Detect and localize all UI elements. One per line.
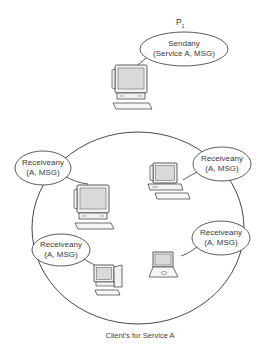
receiver-right-desktop-icon [148, 163, 190, 199]
sender-desktop-icon [112, 65, 152, 109]
receiver-left-desktop-icon [74, 185, 114, 229]
receiver-bottom-left-tower-icon [94, 265, 122, 295]
receiver-call-name: Receiveany [14, 158, 72, 168]
receiver-call-name: Receiveany [192, 228, 250, 238]
receiver-bottom-right-laptop-icon [149, 252, 178, 277]
receiver-right-bubble-text: Receiveany (A, MSG) [193, 154, 251, 174]
sender-node-label: P1 [176, 17, 184, 31]
receiver-call-name: Receiveany [193, 154, 251, 164]
receiver-call-args: (A, MSG) [14, 168, 72, 178]
diagram-canvas [0, 0, 270, 356]
node-label-subscript: 1 [182, 23, 185, 29]
group-caption: Client's for Service A [75, 331, 205, 341]
sender-call-args: (Service A, MSG) [140, 49, 228, 59]
receiver-call-args: (A, MSG) [192, 238, 250, 248]
receiver-left-bubble-text: Receiveany (A, MSG) [14, 158, 72, 178]
receiver-call-name: Receiveany [32, 240, 90, 250]
sender-bubble-text: Sendany (Service A, MSG) [140, 39, 228, 59]
sender-call-name: Sendany [140, 39, 228, 49]
receiver-bottom-right-bubble-text: Receiveany (A, MSG) [192, 228, 250, 248]
receiver-call-args: (A, MSG) [193, 164, 251, 174]
receiver-bottom-left-bubble-text: Receiveany (A, MSG) [32, 240, 90, 260]
receiver-call-args: (A, MSG) [32, 250, 90, 260]
